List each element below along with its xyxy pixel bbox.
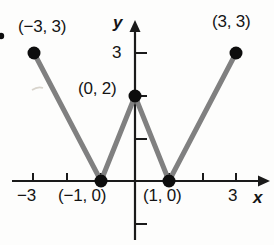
point-label-neg1-0: (−1, 0) [58, 187, 106, 204]
point-label-1-0: (1, 0) [143, 187, 181, 204]
y-axis-arrowhead [130, 20, 141, 32]
bullet-marker-icon [0, 33, 4, 39]
y-axis-label: y [113, 14, 122, 31]
x-axis-arrowhead [258, 176, 270, 187]
x-axis-label: x [253, 189, 262, 206]
x-tick-label-neg3: −3 [17, 187, 36, 204]
point-3-3 [230, 47, 243, 60]
point-label-neg3-3: (−3, 3) [18, 18, 66, 35]
x-tick-label-3: 3 [228, 187, 237, 204]
page-artifact-mark [32, 87, 43, 90]
y-tick-label-3: 3 [112, 44, 121, 61]
point-neg3-3 [28, 47, 41, 60]
point-0-2 [129, 90, 142, 103]
point-label-0-2: (0, 2) [78, 80, 116, 97]
point-label-3-3: (3, 3) [212, 13, 250, 30]
graph-figure: (−3, 3) (3, 3) (0, 2) (−1, 0) (1, 0) −3 … [0, 0, 274, 245]
plot-canvas [0, 0, 274, 245]
